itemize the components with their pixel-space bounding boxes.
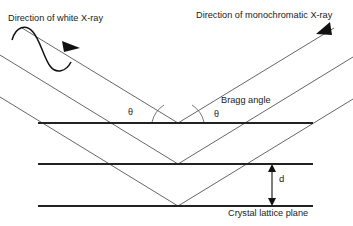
reflected-ray-1 <box>178 28 334 123</box>
diagram-canvas <box>0 0 353 226</box>
d-spacing-arrow <box>268 164 276 206</box>
label-theta-left: θ <box>128 108 133 117</box>
incident-ray-2 <box>0 55 178 164</box>
mono-xray-arrowhead <box>316 22 332 35</box>
reflected-ray-group <box>178 28 353 206</box>
bragg-diffraction-diagram: Direction of white X-ray Direction of mo… <box>0 0 353 226</box>
incident-ray-group <box>0 28 178 206</box>
d-spacing-arrowhead-down <box>268 198 276 206</box>
incident-ray-3 <box>0 97 178 206</box>
label-crystal-lattice-plane: Crystal lattice plane <box>228 209 308 218</box>
label-bragg-angle: Bragg angle <box>221 96 271 105</box>
label-theta-right: θ <box>214 110 219 119</box>
white-xray-wave <box>12 27 71 71</box>
label-d-spacing: d <box>279 174 284 184</box>
reflected-ray-3 <box>178 99 353 206</box>
label-monochromatic-xray-direction: Direction of monochromatic X-ray <box>196 11 332 20</box>
angle-arc-group <box>152 105 204 122</box>
label-white-xray-direction: Direction of white X-ray <box>8 14 103 23</box>
white-xray-arrowhead <box>62 41 80 52</box>
incident-ray-1 <box>22 28 178 123</box>
reflected-ray-2 <box>178 57 353 164</box>
d-spacing-arrowhead-up <box>268 164 276 172</box>
